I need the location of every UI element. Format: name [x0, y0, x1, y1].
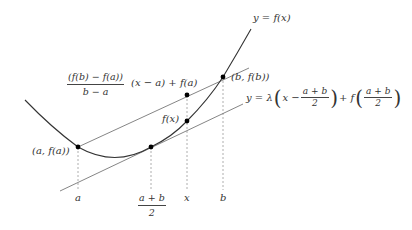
- point-fx: [185, 119, 190, 124]
- point-a: [76, 145, 81, 150]
- tangent-prefix: y = λ: [246, 93, 273, 103]
- point-midpoint: [149, 145, 154, 150]
- point-b: [221, 75, 226, 80]
- point-secant-x: [185, 93, 190, 98]
- axis-label-b: b: [220, 193, 226, 203]
- tangent-frac-2: a + b 2: [364, 87, 392, 108]
- tangent-plus-f: + f: [339, 93, 354, 103]
- axis-label-a: a: [75, 193, 81, 203]
- secant-label-fraction: (f(b) − f(a)) b − a: [67, 72, 124, 96]
- curve-label: y = f(x): [253, 13, 291, 23]
- secant-denominator: b − a: [67, 85, 124, 97]
- secant-label-suffix: (x − a) + f(a): [131, 78, 197, 88]
- point-label-a: (a, f(a)): [32, 146, 70, 156]
- convexity-diagram: [0, 0, 412, 230]
- axis-label-x: x: [184, 193, 190, 203]
- point-label-b: (b, f(b)): [231, 72, 269, 82]
- axis-label-midpoint: a + b 2: [138, 193, 166, 217]
- tangent-label: y = λ ( x − a + b 2 ) + f ( a + b 2 ): [246, 87, 401, 108]
- function-curve: [25, 29, 251, 158]
- tangent-x: x −: [283, 93, 300, 103]
- point-label-fx: f(x): [162, 114, 179, 124]
- tangent-frac-1: a + b 2: [301, 87, 329, 108]
- secant-numerator: (f(b) − f(a)): [67, 72, 124, 85]
